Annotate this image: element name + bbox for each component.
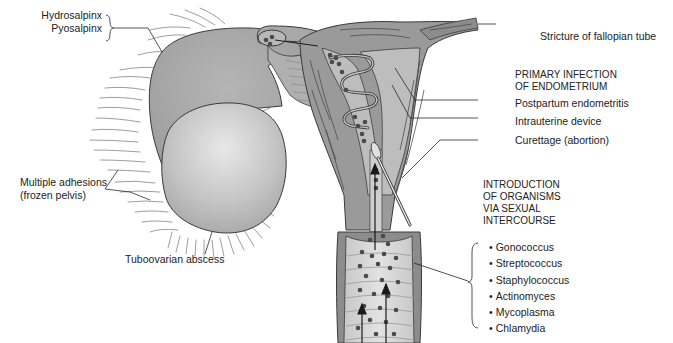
label-frozen-pelvis: (frozen pelvis) (20, 189, 86, 202)
organism-item: Mycoplasma (489, 304, 569, 320)
uterus (300, 18, 478, 232)
label-multiple-adhesions: Multiple adhesions (20, 176, 107, 189)
label-tuboovarian-abscess: Tuboovarian abscess (125, 253, 224, 266)
heading-introduction-4: INTERCOURSE (483, 215, 556, 227)
heading-introduction-1: INTRODUCTION (483, 179, 560, 191)
heading-primary-infection-1: PRIMARY INFECTION (515, 69, 617, 81)
heading-introduction-2: OF ORGANISMS (483, 191, 561, 203)
pid-diagram (0, 0, 673, 343)
organism-item: Gonococcus (489, 239, 569, 255)
organism-item: Actinomyces (489, 288, 569, 304)
organism-list: Gonococcus Streptococcus Staphylococcus … (489, 239, 569, 337)
organism-item: Staphylococcus (489, 272, 569, 288)
organism-item: Streptococcus (489, 255, 569, 271)
label-stricture: Stricture of fallopian tube (540, 30, 656, 43)
organism-item: Chlamydia (489, 320, 569, 336)
heading-introduction-3: VIA SEXUAL (483, 203, 541, 215)
label-pyosalpinx: Pyosalpinx (40, 22, 102, 35)
label-curettage: Curettage (abortion) (515, 134, 609, 147)
label-intrauterine-device: Intrauterine device (515, 115, 601, 128)
label-postpartum-endometritis: Postpartum endometritis (515, 97, 629, 110)
heading-primary-infection-2: OF ENDOMETRIUM (515, 81, 607, 93)
label-hydrosalpinx: Hydrosalpinx (40, 9, 102, 22)
tuboovarian-abscess (162, 103, 286, 233)
vagina (337, 232, 422, 343)
